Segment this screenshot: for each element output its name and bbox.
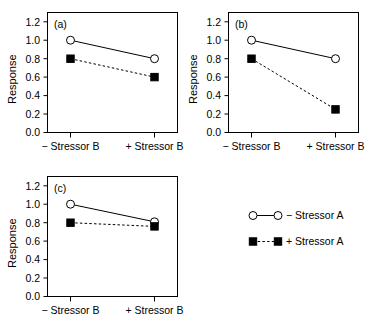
series-line-solid <box>71 204 155 222</box>
panel-b-yticks: 0.0 0.2 0.4 0.6 0.8 1.0 1.2 <box>206 16 228 139</box>
panel-b-xticks: − Stressor B + Stressor B <box>222 133 364 153</box>
legend-entry-minus-stressor-a: − Stressor A <box>249 209 343 221</box>
ytick-label: 0.4 <box>25 253 40 265</box>
ytick-label: 0.2 <box>25 272 40 284</box>
data-point-filled-square <box>332 106 339 113</box>
panel-a-ylabel: Response <box>6 54 18 104</box>
legend-entry-plus-stressor-a: + Stressor A <box>249 235 343 247</box>
legend-marker-open-circle <box>274 212 282 220</box>
xtick-label: − Stressor B <box>41 304 99 316</box>
legend-label: + Stressor A <box>286 235 343 247</box>
data-point-open-circle <box>151 55 159 63</box>
series-line-dashed <box>252 59 336 110</box>
panel-c: (c) Response 0.0 0.2 0.4 0.6 0.8 1.0 1.2 <box>6 177 184 317</box>
xtick-label: + Stressor B <box>125 140 183 152</box>
ytick-label: 1.0 <box>25 198 40 210</box>
legend: − Stressor A + Stressor A <box>249 209 343 247</box>
data-point-filled-square <box>67 55 74 62</box>
ytick-label: 0.0 <box>25 290 40 302</box>
ytick-label: 0.8 <box>25 217 40 229</box>
series-line-solid <box>71 40 155 59</box>
ytick-label: 0.8 <box>206 53 221 65</box>
panel-b-ylabel: Response <box>187 54 199 104</box>
panel-a-xticks: − Stressor B + Stressor B <box>41 133 183 153</box>
panel-a-yticks: 0.0 0.2 0.4 0.6 0.8 1.0 1.2 <box>25 16 47 139</box>
data-point-filled-square <box>151 73 158 80</box>
data-point-open-circle <box>248 36 256 44</box>
xtick-label: + Stressor B <box>125 304 183 316</box>
panel-c-series-plus-stressor-a <box>67 219 158 230</box>
ytick-label: 0.0 <box>206 126 221 138</box>
figure-panel-group: (a) Response 0.0 0.2 0.4 0.6 0.8 1.0 1.2 <box>0 0 369 327</box>
xtick-label: − Stressor B <box>41 140 99 152</box>
legend-marker-filled-square <box>274 238 281 245</box>
panel-a-tag: (a) <box>54 18 67 30</box>
series-line-solid <box>252 40 336 59</box>
legend-label: − Stressor A <box>286 209 343 221</box>
ytick-label: 0.6 <box>206 71 221 83</box>
series-line-dashed <box>71 59 155 77</box>
legend-marker-filled-square <box>249 238 256 245</box>
ytick-label: 0.6 <box>25 235 40 247</box>
ytick-label: 0.6 <box>25 71 40 83</box>
panel-a-frame <box>48 13 178 133</box>
data-point-filled-square <box>67 219 74 226</box>
panel-b-frame <box>229 13 359 133</box>
ytick-label: 1.0 <box>25 34 40 46</box>
panel-b-tag: (b) <box>235 18 248 30</box>
data-point-filled-square <box>151 223 158 230</box>
panel-a-series-plus-stressor-a <box>67 55 158 81</box>
panel-c-xticks: − Stressor B + Stressor B <box>41 297 183 317</box>
ytick-label: 0.4 <box>25 89 40 101</box>
xtick-label: + Stressor B <box>306 140 364 152</box>
panel-b-series-plus-stressor-a <box>248 55 339 113</box>
panel-a: (a) Response 0.0 0.2 0.4 0.6 0.8 1.0 1.2 <box>6 13 184 153</box>
panel-c-frame <box>48 177 178 297</box>
data-point-filled-square <box>248 55 255 62</box>
panel-c-yticks: 0.0 0.2 0.4 0.6 0.8 1.0 1.2 <box>25 180 47 303</box>
panel-c-ylabel: Response <box>6 218 18 268</box>
ytick-label: 0.2 <box>25 108 40 120</box>
data-point-open-circle <box>67 36 75 44</box>
data-point-open-circle <box>67 200 75 208</box>
ytick-label: 0.0 <box>25 126 40 138</box>
panel-c-tag: (c) <box>54 182 66 194</box>
ytick-label: 0.8 <box>25 53 40 65</box>
ytick-label: 1.2 <box>206 16 221 28</box>
ytick-label: 1.2 <box>25 16 40 28</box>
figure-svg: (a) Response 0.0 0.2 0.4 0.6 0.8 1.0 1.2 <box>0 0 369 327</box>
legend-marker-open-circle <box>249 212 257 220</box>
ytick-label: 0.2 <box>206 108 221 120</box>
panel-c-series-minus-stressor-a <box>67 200 159 226</box>
ytick-label: 1.2 <box>25 180 40 192</box>
ytick-label: 1.0 <box>206 34 221 46</box>
xtick-label: − Stressor B <box>222 140 280 152</box>
panel-b: (b) Response 0.0 0.2 0.4 0.6 0.8 1.0 1.2 <box>187 13 365 153</box>
panel-b-series-minus-stressor-a <box>248 36 340 63</box>
ytick-label: 0.4 <box>206 89 221 101</box>
series-line-dashed <box>71 223 155 227</box>
data-point-open-circle <box>332 55 340 63</box>
panel-a-series-minus-stressor-a <box>67 36 159 63</box>
